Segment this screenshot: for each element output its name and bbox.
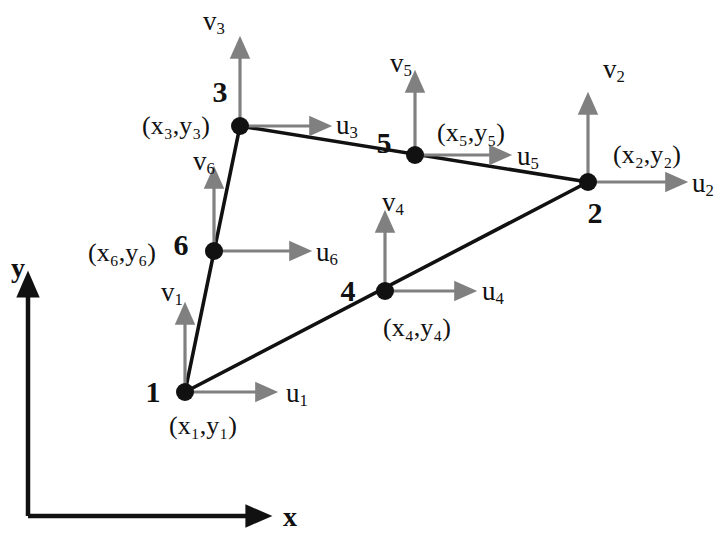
node-number-label-3: 3 xyxy=(213,77,228,107)
node-coordinate-label-6: (x₆,y₆) xyxy=(88,240,156,266)
u-vector-label-1: u1 xyxy=(286,380,308,410)
finite-element-diagram: x y 1(x₁,y₁)u1v12(x₂,y₂)u2v23(x₃,y₃)u3v3… xyxy=(0,0,726,554)
v-vector-label-1: v1 xyxy=(161,279,183,309)
node-coordinate-label-4: (x₄,y₄) xyxy=(383,315,451,341)
u-vector-label-2: u2 xyxy=(692,170,714,200)
node-coordinate-label-2: (x₂,y₂) xyxy=(613,142,681,168)
node-marker-1 xyxy=(176,383,194,401)
v-vector-label-3: v3 xyxy=(203,8,225,38)
node-marker-3 xyxy=(231,117,249,135)
v-vector-label-6: v6 xyxy=(193,148,215,178)
node-number-label-5: 5 xyxy=(377,128,392,158)
y-axis-label: y xyxy=(11,254,25,282)
node-marker-6 xyxy=(205,242,223,260)
v-vector-label-4: v4 xyxy=(382,189,404,219)
node-coordinate-label-1: (x₁,y₁) xyxy=(169,413,237,439)
x-axis-label: x xyxy=(283,503,297,531)
u-vector-label-5: u5 xyxy=(517,143,539,173)
u-vector-label-3: u3 xyxy=(336,112,358,142)
v-vector-label-5: v5 xyxy=(390,50,412,80)
node-marker-4 xyxy=(376,282,394,300)
node-number-label-4: 4 xyxy=(341,276,356,306)
u-vector-label-6: u6 xyxy=(316,239,338,269)
node-marker-5 xyxy=(406,146,424,164)
node-coordinate-label-3: (x₃,y₃) xyxy=(142,113,210,139)
node-number-label-1: 1 xyxy=(146,377,161,407)
v-vector-label-2: v2 xyxy=(603,56,625,86)
node-number-label-6: 6 xyxy=(174,230,189,260)
coordinate-axes xyxy=(28,294,249,516)
node-number-label-2: 2 xyxy=(588,198,603,228)
u-vector-label-4: u4 xyxy=(482,278,504,308)
node-marker-2 xyxy=(579,173,597,191)
node-coordinate-label-5: (x₅,y₅) xyxy=(437,120,505,146)
